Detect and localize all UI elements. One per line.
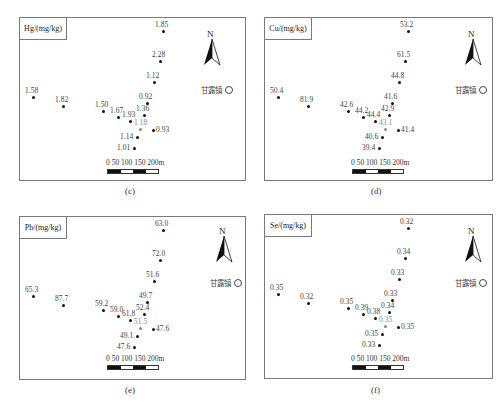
sample-value-label: 81.9	[300, 96, 313, 104]
sample-point	[129, 319, 132, 322]
north-arrow-icon: N	[462, 226, 484, 268]
sample-value-label: 0.33	[362, 341, 375, 349]
sample-point	[381, 136, 384, 139]
sample-value-label: 42.9	[381, 105, 394, 113]
sample-point	[133, 346, 136, 349]
sample-value-label: 59.2	[95, 300, 108, 308]
town-circle-icon	[225, 86, 233, 94]
sample-value-label: 42.6	[340, 101, 353, 109]
sample-value-label: 52.4	[136, 304, 149, 312]
north-arrow-icon: N	[213, 226, 235, 268]
sample-point	[404, 60, 407, 63]
sample-point	[117, 315, 120, 318]
sample-value-label: 44.8	[391, 72, 404, 80]
sample-point	[384, 325, 387, 328]
town-circle-icon	[479, 86, 487, 94]
sample-value-label: 41.4	[401, 126, 414, 134]
sample-point	[277, 293, 280, 296]
caption-c: (c)	[125, 186, 135, 196]
sample-value-label: 2.28	[152, 51, 165, 59]
sample-value-label: 1.01	[117, 144, 130, 152]
sample-point	[102, 309, 105, 312]
sample-point	[62, 304, 65, 307]
sample-point	[152, 328, 155, 331]
sample-point	[277, 96, 280, 99]
sample-point	[307, 302, 310, 305]
sample-point	[153, 81, 156, 84]
legend-pb: Pb/(mg/kg)	[19, 216, 67, 239]
sample-value-label: 51.5	[134, 318, 147, 326]
sample-point	[362, 116, 365, 119]
sample-value-label: 0.33	[391, 269, 404, 277]
sample-point	[62, 105, 65, 108]
scale-label: 0 50 100 150 200m	[106, 158, 164, 167]
sample-value-label: 1.14	[120, 133, 133, 141]
sample-point	[153, 280, 156, 283]
sample-value-label: 41.6	[384, 93, 397, 101]
sample-point	[378, 344, 381, 347]
sample-value-label: 72.0	[152, 250, 165, 258]
scale-bar	[352, 169, 404, 174]
sample-value-label: 0.34	[397, 248, 410, 256]
sample-value-label: 51.6	[146, 271, 159, 279]
sample-value-label: 1.50	[95, 101, 108, 109]
sample-point	[159, 259, 162, 262]
sample-point	[388, 114, 391, 117]
north-arrow-icon: N	[201, 29, 223, 71]
map-panel-pb: Pb/(mg/kg) N 甘露镇 0 50 100 150 200m 63.07…	[19, 216, 246, 380]
sample-value-label: 0.35	[270, 284, 283, 292]
sample-value-label: 0.93	[156, 126, 169, 134]
sample-point	[388, 311, 391, 314]
scale-bar	[352, 365, 404, 370]
sample-point	[139, 128, 142, 131]
sample-value-label: 0.35	[365, 330, 378, 338]
sample-point	[159, 60, 162, 63]
sample-value-label: 1.85	[155, 21, 168, 29]
sample-value-label: 1.18	[134, 119, 147, 127]
sample-point	[136, 335, 139, 338]
legend-se: Se/(mg/kg)	[264, 214, 312, 237]
sample-value-label: 87.7	[55, 295, 68, 303]
sample-point	[398, 278, 401, 281]
sample-point	[136, 136, 139, 139]
scale-bar	[107, 169, 159, 174]
town-marker: 甘露镇	[455, 84, 487, 95]
sample-value-label: 53.2	[400, 21, 413, 29]
sample-value-label: 49.7	[139, 292, 152, 300]
sample-value-label: 0.32	[300, 293, 313, 301]
sample-point	[397, 326, 400, 329]
sample-value-label: 0.32	[400, 218, 413, 226]
sample-value-label: 40.6	[365, 133, 378, 141]
town-marker: 甘露镇	[455, 277, 487, 288]
sample-point	[398, 81, 401, 84]
sample-value-label: 0.35	[379, 316, 392, 324]
sample-point	[378, 147, 381, 150]
town-circle-icon	[234, 279, 242, 287]
sample-value-label: 0.35	[340, 298, 353, 306]
sample-point	[347, 110, 350, 113]
sample-point	[381, 333, 384, 336]
sample-point	[397, 129, 400, 132]
scale-label: 0 50 100 150 200m	[106, 354, 164, 363]
scale-bar	[107, 365, 159, 370]
sample-value-label: 61.5	[397, 51, 410, 59]
town-marker: 甘露镇	[210, 277, 242, 288]
town-circle-icon	[479, 279, 487, 287]
sample-point	[32, 295, 35, 298]
map-panel-cu: Cu/(mg/kg) N 甘露镇 0 50 100 150 200m 53.26…	[264, 17, 493, 181]
sample-value-label: 63.0	[155, 220, 168, 228]
sample-point	[133, 147, 136, 150]
sample-point	[407, 30, 410, 33]
sample-value-label: 47.6	[156, 325, 169, 333]
sample-value-label: 49.1	[120, 332, 133, 340]
sample-point	[162, 30, 165, 33]
sample-point	[307, 105, 310, 108]
sample-value-label: 47.6	[117, 343, 130, 351]
legend-hg: Hg/(mg/kg)	[19, 17, 67, 40]
sample-point	[404, 257, 407, 260]
sample-point	[407, 227, 410, 230]
sample-point	[32, 96, 35, 99]
caption-e: (e)	[125, 385, 135, 395]
caption-f: (f)	[371, 385, 380, 395]
sample-point	[139, 327, 142, 330]
